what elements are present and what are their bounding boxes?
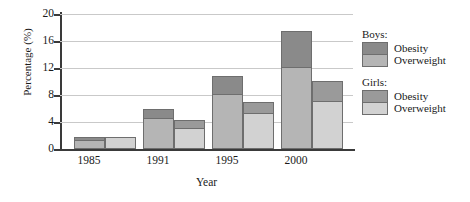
bar-segment-girls-overweight-1995 [244,114,273,148]
chart-figure: Percentage (%) 20 16 12 8 4 0 [0,0,470,202]
legend-label-girls-overweight: Overweight [394,102,446,114]
x-tick-label-2000: 2000 [261,154,331,166]
y-tick-label-4: 4 [32,116,54,128]
bar-segment-girls-overweight-2000 [313,102,342,148]
bar-segment-boys-obesity-2000 [282,32,311,68]
legend-label-boys-obesity: Obesity [394,42,446,54]
x-tick-label-1991: 1991 [123,154,193,166]
legend-group-title-boys: Boys: [362,28,468,40]
y-tick-label-20: 20 [32,8,54,20]
bar-segment-girls-overweight-1991 [175,129,204,148]
bar-segment-boys-overweight-1991 [144,119,173,148]
legend-label-girls-obesity: Obesity [394,90,446,102]
bar-boys-1995 [212,76,243,149]
y-tick-label-16: 16 [32,35,54,47]
legend-group-title-girls: Girls: [362,76,468,88]
bar-segment-boys-obesity-1995 [213,77,242,95]
x-axis-line [59,149,355,151]
x-tick-label-1985: 1985 [54,154,124,166]
legend-swatch-girls-obesity [363,91,387,103]
bar-segment-boys-obesity-1991 [144,110,173,119]
legend-swatch-boys-obesity [363,43,387,55]
y-tick-label-12: 12 [32,62,54,74]
y-tick-label-0: 0 [32,143,54,155]
legend-swatch-girls-overweight [363,103,387,114]
legend-group-girls: Girls: Obesity Overweight [362,76,468,115]
bar-boys-1985 [74,137,105,149]
plot-area [60,14,353,149]
x-axis-title: Year [60,176,353,188]
chart-legend: Boys: Obesity Overweight Girls: [362,28,468,124]
legend-swatch-boys-overweight [363,55,387,66]
legend-label-boys-overweight: Overweight [394,54,446,66]
gridline-20 [60,14,353,15]
bar-segment-girls-overweight-1985 [106,138,135,148]
y-axis-tick-labels: 20 16 12 8 4 0 [26,0,54,202]
x-tick-label-1995: 1995 [192,154,262,166]
bar-segment-girls-obesity-1995 [244,103,273,114]
legend-group-boys: Boys: Obesity Overweight [362,28,468,67]
bar-girls-1995 [243,102,274,149]
bar-boys-2000 [281,31,312,149]
bar-girls-1991 [174,120,205,149]
bar-segment-boys-overweight-1995 [213,95,242,148]
bar-girls-2000 [312,81,343,149]
bar-segment-girls-obesity-2000 [313,82,342,102]
legend-swatches-girls [362,90,388,115]
bar-boys-1991 [143,109,174,149]
bar-segment-girls-obesity-1991 [175,121,204,129]
bar-segment-boys-overweight-2000 [282,68,311,148]
bar-girls-1985 [105,137,136,149]
y-tick-label-8: 8 [32,89,54,101]
legend-swatches-boys [362,42,388,67]
bar-segment-boys-overweight-1985 [75,141,104,148]
